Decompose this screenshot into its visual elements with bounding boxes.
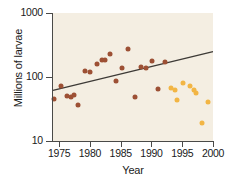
x-tick-label: 1995 [171,148,193,159]
data-point [150,58,155,63]
chart-container: 101001000 197519801985199019952000 Milli… [0,0,235,182]
data-point [71,92,76,97]
data-point [119,66,124,71]
data-point [163,60,168,65]
data-point [172,88,177,93]
y-tick-mark [46,77,52,78]
data-point [107,51,112,56]
data-point [156,86,161,91]
x-axis-title: Year [53,164,213,176]
data-point [132,95,137,100]
data-point [94,61,99,66]
data-point [175,97,180,102]
data-point [59,84,64,89]
data-point [180,81,185,86]
data-point [206,100,211,105]
data-point [143,66,148,71]
x-tick-label: 1990 [140,148,162,159]
trend-line [53,13,213,141]
y-tick-mark [46,13,52,14]
y-tick-label: 10 [32,135,43,146]
x-tick-label: 1980 [79,148,101,159]
data-point [194,90,199,95]
data-point [102,57,107,62]
data-point [114,78,119,83]
x-tick-label: 1985 [110,148,132,159]
data-point [199,121,204,126]
y-axis-title: Millions of larvae [12,13,24,123]
x-tick-label: 1975 [48,148,70,159]
y-tick-label: 100 [26,71,43,82]
data-point [87,69,92,74]
x-axis-spine [52,141,214,142]
data-point [75,103,80,108]
y-axis-spine [52,13,53,142]
data-point [126,47,131,52]
x-tick-label: 2000 [202,148,224,159]
y-tick-mark [46,141,52,142]
